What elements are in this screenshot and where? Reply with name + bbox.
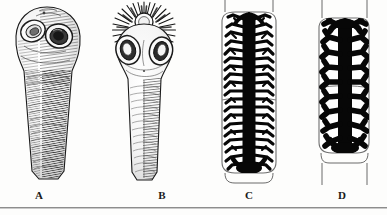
figure-label-a: A [27, 189, 51, 201]
figure-label-d: D [330, 189, 354, 201]
scolex-b-median-pore [143, 70, 145, 72]
scolex-unarmed-drawing [0, 0, 95, 185]
figure-baseline-rule-shadow [0, 208, 387, 209]
scolex-armed-drawing [97, 0, 192, 185]
figure-panel-a [0, 0, 95, 185]
figure-panel-c [205, 0, 293, 185]
figure-panel-d [300, 0, 387, 185]
gravid-proglottid-many-branches-drawing [205, 0, 293, 185]
figure-panel-b [97, 0, 192, 185]
figure-label-c: C [237, 189, 261, 201]
scolex-a-apex-nodule [43, 12, 46, 15]
figure-plate: A B C D [0, 0, 387, 215]
figure-label-b: B [150, 189, 174, 201]
gravid-proglottid-few-branches-drawing [300, 0, 387, 185]
